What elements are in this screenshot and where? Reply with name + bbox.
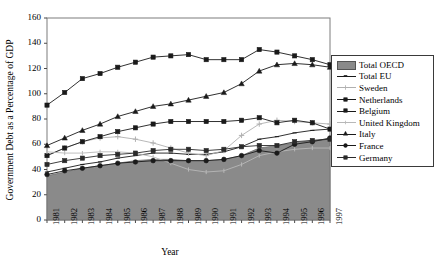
y-tick-label: 140 xyxy=(15,37,41,47)
legend-key-germany-icon xyxy=(336,152,357,163)
legend-item[interactable]: Total EU xyxy=(336,71,430,83)
x-tick-label: 1986 xyxy=(139,208,149,225)
legend-item[interactable]: France xyxy=(336,140,430,152)
x-tick-label: 1995 xyxy=(299,208,309,225)
y-tick-label: 160 xyxy=(15,12,41,22)
y-tick-label: 60 xyxy=(15,138,41,148)
legend-key-united-kingdom-icon xyxy=(336,117,357,128)
legend-key-belgium-icon xyxy=(336,106,357,117)
x-tick-label: 1990 xyxy=(210,208,220,225)
legend-label: United Kingdom xyxy=(357,118,420,128)
x-tick-label: 1982 xyxy=(69,208,79,225)
x-tick-label: 1992 xyxy=(246,208,256,225)
legend-item[interactable]: Italy xyxy=(336,129,430,141)
legend-item[interactable]: Belgium xyxy=(336,105,430,117)
y-tick-label: 0 xyxy=(15,214,41,224)
legend-label: Italy xyxy=(357,129,376,139)
x-tick-label: 1991 xyxy=(228,208,238,225)
y-tick-label: 20 xyxy=(15,189,41,199)
y-tick-label: 40 xyxy=(15,164,41,174)
legend-label: Germany xyxy=(357,153,393,163)
legend-label: France xyxy=(357,141,384,151)
x-tick-label: 1994 xyxy=(281,208,291,225)
legend-label: Netherlands xyxy=(357,95,402,105)
legend-item[interactable]: United Kingdom xyxy=(336,117,430,129)
legend-label: Total OECD xyxy=(357,60,404,70)
legend-item[interactable]: Germany xyxy=(336,152,430,164)
x-tick-label: 1985 xyxy=(122,208,132,225)
chart-legend: Total OECDTotal EUSwedenNetherlandsBelgi… xyxy=(331,55,434,167)
legend-item[interactable]: Total OECD xyxy=(336,59,430,71)
x-tick-label: 1984 xyxy=(104,208,114,225)
x-tick-label: 1997 xyxy=(334,208,344,225)
legend-item[interactable]: Netherlands xyxy=(336,94,430,106)
y-tick-label: 100 xyxy=(15,88,41,98)
x-tick-label: 1983 xyxy=(86,208,96,225)
x-tick-label: 1996 xyxy=(316,208,326,225)
legend-key-total-eu-icon xyxy=(336,71,357,82)
x-tick-label: 1993 xyxy=(263,208,273,225)
legend-key-netherlands-icon xyxy=(336,94,357,105)
legend-key-france-icon xyxy=(336,140,357,151)
x-tick-label: 1988 xyxy=(175,208,185,225)
y-tick-label: 80 xyxy=(15,113,41,123)
legend-item[interactable]: Sweden xyxy=(336,82,430,94)
legend-label: Sweden xyxy=(357,83,388,93)
legend-key-sweden-icon xyxy=(336,82,357,93)
chart-container: Government Debt as a Percentage of GDP 0… xyxy=(0,0,438,269)
y-tick-label: 120 xyxy=(15,63,41,73)
x-axis-title: Year xyxy=(0,247,340,257)
legend-label: Belgium xyxy=(357,106,390,116)
legend-label: Total EU xyxy=(357,71,392,81)
x-tick-label: 1981 xyxy=(51,208,61,225)
x-tick-label: 1987 xyxy=(157,208,167,225)
x-tick-label: 1989 xyxy=(193,208,203,225)
legend-key-italy-icon xyxy=(336,129,357,140)
legend-key-total-oecd-icon xyxy=(336,59,357,70)
